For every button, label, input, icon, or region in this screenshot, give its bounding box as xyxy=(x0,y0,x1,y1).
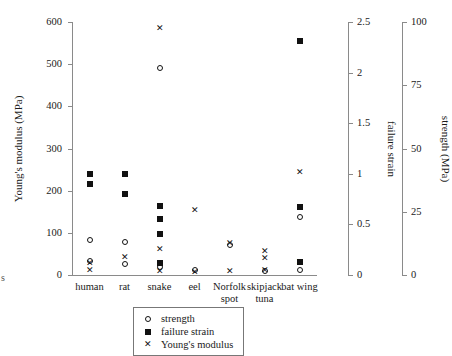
y-axis-left-tick xyxy=(68,233,72,234)
data-point-cross xyxy=(121,253,129,261)
legend-label: failure strain xyxy=(161,326,214,338)
y-axis-left-tick xyxy=(68,191,72,192)
right1-tick xyxy=(348,22,353,23)
y-axis-left-tick-label: 500 xyxy=(24,59,62,70)
data-point-filled-square xyxy=(87,171,93,177)
right2-tick-label: 0 xyxy=(411,270,416,281)
y-axis-left-line xyxy=(72,22,73,275)
data-point-cross xyxy=(226,267,234,275)
legend-item: ✕Young's modulus xyxy=(142,338,233,351)
y-axis-left-tick xyxy=(68,64,72,65)
x-axis-category-label: bat wing xyxy=(273,281,327,293)
right2-tick xyxy=(402,212,407,213)
data-point-filled-square xyxy=(157,231,163,237)
right1-tick-label: 0 xyxy=(357,270,362,281)
legend-marker-open-circle-icon xyxy=(142,313,154,325)
edge-glyph: s xyxy=(1,272,5,283)
y-axis-left-tick xyxy=(68,149,72,150)
right2-tick-label: 25 xyxy=(411,207,422,218)
right2-tick-label: 75 xyxy=(411,80,422,91)
y-axis-left-tick-label: 400 xyxy=(24,101,62,112)
data-point-open-circle xyxy=(297,214,303,220)
legend-item: strength xyxy=(142,312,233,325)
y-axis-left-tick-label: 600 xyxy=(24,17,62,28)
right2-tick xyxy=(402,149,407,150)
data-point-filled-square xyxy=(157,216,163,222)
right2-tick xyxy=(402,22,407,23)
right1-tick xyxy=(348,123,353,124)
y-axis-left-title: Young's modulus (MPa) xyxy=(12,95,24,202)
legend-marker-filled-square-icon xyxy=(142,326,154,338)
right2-tick-label: 100 xyxy=(411,17,427,28)
right1-tick xyxy=(348,174,353,175)
legend-marker-cross-icon: ✕ xyxy=(142,339,154,351)
data-point-filled-square xyxy=(122,171,128,177)
y-axis-left-tick-label: 100 xyxy=(24,228,62,239)
right1-tick xyxy=(348,224,353,225)
data-point-open-circle xyxy=(122,239,128,245)
data-point-cross xyxy=(261,266,269,274)
legend-label: strength xyxy=(161,313,195,325)
y-axis-left-tick-label: 300 xyxy=(24,144,62,155)
data-point-cross xyxy=(156,267,164,275)
y-axis-left-tick-label: 0 xyxy=(24,270,62,281)
data-point-cross xyxy=(296,258,304,266)
right1-tick-label: 1 xyxy=(357,169,362,180)
data-point-cross xyxy=(191,268,199,276)
y-axis-left-tick xyxy=(68,275,72,276)
right2-tick xyxy=(402,85,407,86)
data-point-cross xyxy=(191,206,199,214)
data-point-cross xyxy=(156,24,164,32)
data-point-cross xyxy=(226,239,234,247)
y-axis-left-tick xyxy=(68,106,72,107)
right1-tick-label: 2.5 xyxy=(357,17,370,28)
data-point-open-circle xyxy=(87,237,93,243)
data-point-open-circle xyxy=(297,267,303,273)
data-point-cross xyxy=(156,245,164,253)
chart-legend: strengthfailure strain✕Young's modulus xyxy=(133,307,244,356)
right1-tick xyxy=(348,275,353,276)
data-point-cross xyxy=(86,266,94,274)
legend-item: failure strain xyxy=(142,325,233,338)
right1-tick-label: 0.5 xyxy=(357,219,370,230)
y-axis-strength-title: strength (MPa) xyxy=(440,115,452,181)
y-axis-failure-strain-title: failure strain xyxy=(386,121,398,177)
plot-area: 0100200300400500600 Young's modulus (MPa… xyxy=(72,22,317,275)
right1-tick xyxy=(348,73,353,74)
right2-tick xyxy=(402,275,407,276)
right1-tick-label: 1.5 xyxy=(357,118,370,129)
data-point-filled-square xyxy=(157,203,163,209)
data-point-filled-square xyxy=(297,38,303,44)
y-axis-left-tick xyxy=(68,22,72,23)
data-point-cross xyxy=(296,168,304,176)
legend-label: Young's modulus xyxy=(161,339,233,351)
y-axis-left-tick-label: 200 xyxy=(24,186,62,197)
right2-tick-label: 50 xyxy=(411,144,422,155)
data-point-filled-square xyxy=(122,191,128,197)
right1-tick-label: 2 xyxy=(357,68,362,79)
data-point-open-circle xyxy=(157,65,163,71)
data-point-filled-square xyxy=(87,181,93,187)
data-point-filled-square xyxy=(297,204,303,210)
y-axis-failure-strain-line xyxy=(348,22,349,275)
data-point-cross xyxy=(261,254,269,262)
